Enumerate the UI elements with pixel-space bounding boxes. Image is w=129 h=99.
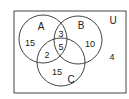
region-b-only: 10	[85, 39, 95, 49]
region-a-and-b: 3	[58, 29, 63, 39]
set-a-label: A	[38, 21, 45, 32]
venn-diagram: U A B C 15 10 15 3 2 5 4	[0, 0, 129, 99]
region-a-b-c: 5	[58, 42, 63, 52]
set-b-label: B	[78, 20, 85, 31]
set-c-label: C	[67, 74, 74, 85]
universe-label: U	[109, 15, 116, 26]
region-outside: 4	[109, 52, 114, 62]
region-c-only: 15	[52, 67, 62, 77]
region-a-and-c: 2	[44, 50, 49, 60]
region-a-only: 15	[25, 38, 35, 48]
